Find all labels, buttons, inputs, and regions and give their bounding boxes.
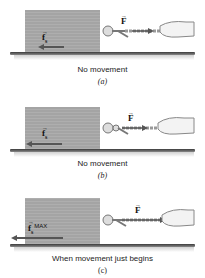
rope-and-hand — [100, 207, 195, 229]
friction-arrow — [38, 44, 68, 50]
rope-and-hand — [100, 18, 195, 40]
floor — [10, 52, 195, 55]
applied-force-label: →F — [128, 114, 134, 123]
panel-label: (a) — [0, 77, 205, 86]
friction-arrow — [26, 141, 64, 147]
panel-a: →fs →F No movement (a) — [0, 0, 205, 92]
floor-shadow — [14, 152, 194, 157]
applied-force-label: →F — [121, 17, 127, 26]
panel-b: →fs →F No movement (b) — [0, 95, 205, 185]
rope-and-hand — [100, 115, 195, 137]
applied-force-label: →F — [135, 206, 141, 215]
floor — [10, 244, 195, 247]
caption: No movement — [0, 65, 205, 74]
friction-label: →fsMAX — [28, 223, 47, 235]
floor-shadow — [14, 247, 194, 252]
caption: No movement — [0, 159, 205, 168]
floor-shadow — [14, 55, 194, 60]
floor — [10, 149, 195, 152]
caption: When movement just begins — [0, 254, 205, 263]
panel-label: (c) — [0, 266, 205, 275]
panel-c: →fsMAX →F When movement just begins (c) — [0, 185, 205, 278]
friction-label: →fs — [42, 33, 47, 44]
friction-arrow — [11, 235, 65, 241]
panel-label: (b) — [0, 171, 205, 180]
friction-label: →fs — [42, 129, 47, 140]
